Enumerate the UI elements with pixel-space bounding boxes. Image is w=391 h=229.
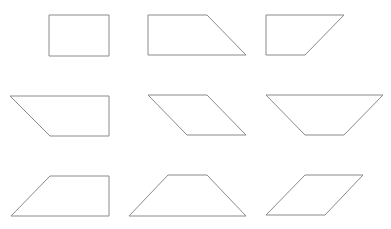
shape-right-trapezoid-r2c1 bbox=[10, 96, 109, 136]
shape-parallelogram-r2c2 bbox=[148, 95, 246, 135]
shape-rectangle-r1c1 bbox=[49, 15, 109, 56]
shape-right-trapezoid-r3c1 bbox=[11, 176, 109, 216]
shape-isosceles-trapezoid-r2c3 bbox=[266, 95, 383, 135]
shape-parallelogram-r3c3 bbox=[266, 175, 363, 215]
shapes-canvas bbox=[0, 0, 391, 229]
shape-isosceles-trapezoid-r3c2 bbox=[129, 175, 246, 216]
shape-right-trapezoid-r1c3 bbox=[266, 15, 344, 55]
shape-right-trapezoid-r1c2 bbox=[148, 15, 246, 55]
